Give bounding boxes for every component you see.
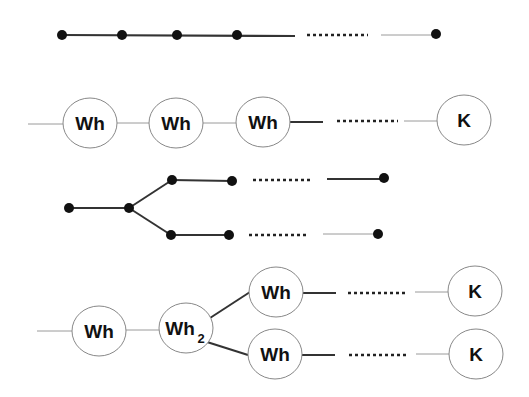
- node-label: Wh: [261, 282, 291, 303]
- node-wh2: Wh 2: [159, 303, 213, 353]
- edge: [172, 180, 232, 181]
- dot-node: [373, 229, 383, 239]
- node-k: K: [437, 95, 491, 145]
- node-wh: Wh: [72, 306, 126, 356]
- node-label: Wh: [248, 112, 278, 133]
- dot-node: [172, 30, 182, 40]
- node-wh: Wh: [236, 97, 290, 147]
- node-label: Wh: [260, 344, 290, 365]
- node-wh: Wh: [63, 98, 117, 148]
- linear-chain-labeled: Wh Wh Wh K: [28, 95, 491, 148]
- node-label: K: [468, 281, 482, 302]
- dot-node: [232, 30, 242, 40]
- node-label: Wh: [75, 113, 105, 134]
- node-wh: Wh: [249, 267, 303, 317]
- linear-chain-dots: [57, 29, 441, 40]
- dot-node: [124, 203, 134, 213]
- branched-chain-labeled: Wh Wh 2 Wh Wh K K: [37, 266, 503, 379]
- dot-node: [166, 230, 176, 240]
- node-label: K: [469, 344, 483, 365]
- dot-node: [57, 30, 67, 40]
- edge: [129, 180, 172, 208]
- node-subscript: 2: [197, 331, 204, 346]
- edge: [129, 208, 171, 235]
- node-k: K: [448, 266, 502, 316]
- dot-node: [167, 175, 177, 185]
- node-wh: Wh: [149, 98, 203, 148]
- edge: [210, 292, 250, 318]
- diagram-canvas: Wh Wh Wh K: [0, 0, 529, 397]
- branched-chain-dots: [64, 173, 389, 240]
- dot-node: [224, 230, 234, 240]
- node-label: K: [457, 110, 471, 131]
- node-label: Wh: [165, 318, 195, 339]
- node-k: K: [449, 329, 503, 379]
- node-label: Wh: [161, 113, 191, 134]
- edge: [207, 342, 248, 355]
- dot-node: [117, 30, 127, 40]
- dot-node: [379, 173, 389, 183]
- node-label: Wh: [84, 321, 114, 342]
- dot-node: [64, 203, 74, 213]
- dot-node: [431, 29, 441, 39]
- dot-node: [227, 176, 237, 186]
- node-wh: Wh: [248, 329, 302, 379]
